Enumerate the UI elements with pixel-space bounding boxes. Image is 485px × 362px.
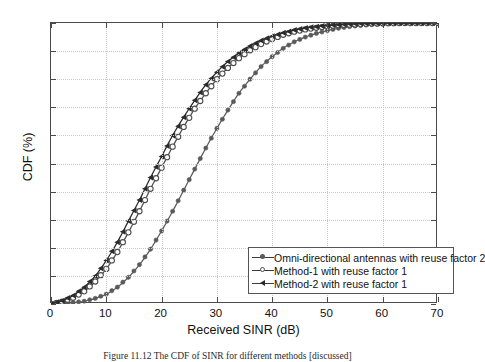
x-axis-tick: [162, 297, 163, 302]
filled-triangle-marker: [109, 248, 115, 254]
open-circle-marker: [126, 230, 131, 235]
filled-dot-marker: [303, 35, 307, 39]
legend-label-omni: Omni-directional antennas with reuse fac…: [274, 252, 485, 264]
open-circle-marker: [142, 197, 147, 202]
x-axis-tick: [438, 23, 439, 28]
open-circle-marker: [209, 84, 214, 89]
y-axis-tick: [51, 164, 56, 165]
open-circle-marker: [260, 267, 265, 272]
filled-triangle-marker: [120, 229, 126, 235]
legend-item[interactable]: Omni-directional antennas with reuse fac…: [252, 251, 449, 264]
grid-line-vertical: [106, 23, 107, 302]
filled-dot-marker: [115, 285, 119, 289]
x-axis-tick: [327, 23, 328, 28]
open-circle-marker: [109, 258, 114, 263]
y-axis-tick: [51, 79, 56, 80]
filled-dot-marker: [82, 299, 86, 303]
x-axis-tick: [383, 23, 384, 28]
filled-triangle-marker: [181, 114, 187, 120]
grid-line-horizontal: [51, 220, 436, 221]
x-axis-tick-label: 40: [251, 308, 291, 320]
open-circle-marker: [236, 56, 241, 61]
x-axis-tick: [272, 23, 273, 28]
y-axis-tick: [51, 107, 56, 108]
filled-triangle-marker: [153, 164, 159, 170]
legend-label-method-2: Method-2 with reuse factor 1: [274, 278, 407, 290]
filled-dot-marker: [314, 31, 318, 35]
open-circle-marker: [203, 91, 208, 96]
x-axis-title: Received SINR (dB): [50, 323, 437, 337]
filled-triangle-marker: [175, 123, 181, 129]
y-axis-title: CDF (%): [21, 107, 35, 207]
filled-triangle-marker: [131, 208, 137, 214]
filled-dot-marker: [287, 43, 291, 47]
plot-area: Omni-directional antennas with reuse fac…: [50, 22, 437, 303]
x-axis-tick: [217, 297, 218, 302]
x-axis-tick: [383, 297, 384, 302]
grid-line-horizontal: [51, 135, 436, 136]
filled-dot-marker: [281, 46, 285, 50]
grid-line-horizontal: [51, 79, 436, 80]
y-axis-tick: [431, 135, 436, 136]
open-circle-marker: [87, 284, 92, 289]
x-axis-tick: [106, 297, 107, 302]
grid-line-horizontal: [51, 51, 436, 52]
filled-dot-marker: [298, 37, 302, 41]
open-circle-marker: [170, 144, 175, 149]
filled-dot-marker: [260, 254, 265, 259]
filled-dot-marker: [292, 40, 296, 44]
filled-dot-marker: [220, 117, 224, 121]
open-circle-marker: [165, 155, 170, 160]
y-axis-tick: [431, 164, 436, 165]
filled-dot-marker: [253, 71, 257, 75]
filled-dot-marker: [171, 209, 175, 213]
filled-dot-marker: [259, 64, 263, 68]
legend-item[interactable]: Method-1 with reuse factor 1: [252, 264, 449, 277]
open-circle-marker: [93, 279, 98, 284]
filled-dot-marker: [226, 108, 230, 112]
y-axis-tick: [431, 51, 436, 52]
x-axis-tick: [106, 23, 107, 28]
filled-triangle-marker: [98, 265, 104, 271]
y-axis-tick: [51, 135, 56, 136]
filled-dot-marker: [204, 146, 208, 150]
y-axis-tick: [51, 248, 56, 249]
open-circle-marker: [120, 240, 125, 245]
x-axis-tick: [327, 297, 328, 302]
filled-dot-marker: [77, 300, 81, 304]
x-axis-tick: [51, 297, 52, 302]
x-axis-tick-label: 10: [85, 308, 125, 320]
filled-dot-marker: [242, 84, 246, 88]
filled-dot-marker: [121, 280, 125, 284]
filled-triangle-marker: [260, 280, 265, 286]
x-axis-tick-label: 30: [196, 308, 236, 320]
grid-line-horizontal: [51, 164, 436, 165]
filled-dot-marker: [88, 298, 92, 302]
x-axis-tick: [217, 23, 218, 28]
open-circle-marker: [181, 124, 186, 129]
filled-triangle-marker: [148, 175, 154, 181]
open-circle-marker: [231, 60, 236, 65]
filled-dot-marker: [237, 91, 241, 95]
figure-caption: Figure 11.12 The CDF of SINR for differe…: [0, 351, 455, 362]
open-circle-marker: [242, 52, 247, 57]
legend-box[interactable]: Omni-directional antennas with reuse fac…: [248, 247, 454, 294]
open-circle-marker: [225, 65, 230, 70]
legend-item[interactable]: Method-2 with reuse factor 1: [252, 277, 449, 290]
x-axis-tick-label: 0: [30, 308, 70, 320]
open-circle-marker: [187, 115, 192, 120]
y-axis-tick: [51, 276, 56, 277]
y-axis-tick: [51, 220, 56, 221]
x-axis-tick: [272, 297, 273, 302]
open-circle-marker: [137, 209, 142, 214]
open-circle-marker: [220, 71, 225, 76]
filled-dot-marker: [209, 136, 213, 140]
filled-dot-marker: [143, 255, 147, 259]
filled-dot-marker: [154, 238, 158, 242]
legend-sample-omni: [252, 252, 274, 264]
grid-line-vertical: [217, 23, 218, 302]
filled-dot-marker: [71, 300, 75, 304]
filled-dot-marker: [99, 294, 103, 298]
filled-dot-marker: [132, 269, 136, 273]
